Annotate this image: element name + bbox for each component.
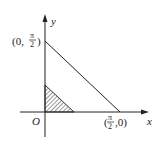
y-intercept-label: (0, π 2 ) <box>12 31 41 49</box>
x-axis-arrow-icon <box>141 110 149 115</box>
svg-text:π: π <box>30 31 34 40</box>
x-intercept-label: ( π 2 ,0) <box>104 113 127 131</box>
diagram: y x O (0, π 2 ) ( π 2 ,0) <box>0 0 159 147</box>
svg-text:π: π <box>108 113 112 122</box>
svg-text:2: 2 <box>30 40 34 49</box>
shaded-region <box>45 85 74 112</box>
y-axis-arrow-icon <box>43 14 48 22</box>
origin-label: O <box>32 115 40 127</box>
svg-text:,0): ,0) <box>115 116 127 129</box>
svg-text:): ) <box>37 35 41 48</box>
x-axis-label: x <box>146 115 152 127</box>
y-axis-label: y <box>50 15 56 27</box>
svg-text:2: 2 <box>108 122 112 131</box>
svg-text:(0,: (0, <box>12 35 24 48</box>
